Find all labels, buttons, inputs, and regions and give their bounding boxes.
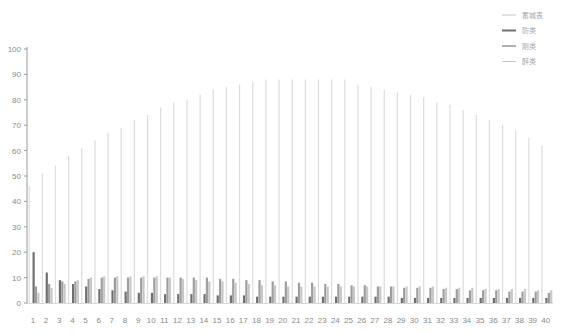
bar-series-3	[511, 289, 513, 303]
y-tick-label: 60	[12, 147, 21, 156]
x-tick-label: 20	[278, 316, 287, 325]
bar-series-0	[463, 110, 464, 303]
bar-series-1	[427, 298, 429, 303]
x-tick-label: 5	[83, 316, 88, 325]
bar-series-3	[142, 276, 144, 303]
x-tick-label: 38	[515, 316, 524, 325]
bar-series-2	[311, 283, 313, 303]
bar-series-1	[282, 297, 284, 303]
bar-series-3	[379, 286, 381, 303]
bar-series-1	[111, 290, 113, 303]
bar-series-0	[436, 102, 437, 303]
bar-series-0	[541, 146, 542, 303]
bar-series-2	[245, 280, 247, 303]
bar-series-1	[440, 298, 442, 303]
bar-series-1	[519, 298, 521, 303]
bar-series-1	[98, 289, 100, 303]
x-tick-label: 27	[370, 316, 379, 325]
bar-series-2	[390, 286, 392, 303]
bar-group-37	[502, 125, 513, 303]
legend-item-2[interactable]: 刚类	[502, 42, 536, 51]
x-axis: 1234567891011121314151617181920212223242…	[27, 304, 553, 326]
x-tick-label: 21	[291, 316, 300, 325]
bar-series-3	[405, 286, 407, 303]
bar-series-2	[403, 288, 405, 303]
bar-group-34	[463, 110, 474, 303]
x-tick-label: 37	[502, 316, 511, 325]
bar-series-1	[217, 295, 219, 303]
bar-series-3	[445, 288, 447, 303]
bar-series-2	[521, 292, 523, 303]
bar-series-2	[548, 293, 550, 303]
bar-series-0	[55, 166, 56, 303]
bar-group-38	[515, 130, 526, 303]
bar-series-0	[292, 79, 293, 303]
legend-label: 刚类	[522, 42, 536, 51]
bar-group-1	[29, 186, 40, 303]
bar-group-31	[423, 97, 434, 303]
x-tick-label: 9	[136, 316, 141, 325]
bar-series-2	[377, 286, 379, 303]
bar-series-3	[169, 278, 171, 303]
x-tick-label: 33	[449, 316, 458, 325]
x-tick-label: 8	[123, 316, 128, 325]
bar-group-35	[476, 115, 487, 303]
bar-series-1	[85, 286, 87, 303]
bar-group-20	[278, 79, 289, 303]
bar-series-0	[200, 95, 201, 303]
bar-group-26	[357, 85, 368, 303]
x-tick-label: 39	[528, 316, 537, 325]
legend-item-3[interactable]: 醉类	[502, 57, 536, 66]
bar-series-2	[140, 278, 142, 303]
y-tick-label: 0	[17, 299, 22, 308]
bar-series-1	[401, 298, 403, 303]
bar-series-0	[252, 82, 253, 303]
legend-item-1[interactable]: 防类	[502, 26, 536, 35]
bar-group-9	[134, 120, 145, 303]
x-tick-label: 7	[110, 316, 115, 325]
bar-group-23	[318, 79, 329, 303]
bar-series-1	[414, 298, 416, 303]
x-tick-label: 40	[541, 316, 550, 325]
bar-series-0	[226, 87, 227, 303]
bar-series-3	[248, 284, 250, 303]
bar-series-2	[456, 289, 458, 303]
bar-group-8	[121, 128, 132, 303]
bar-series-1	[335, 297, 337, 303]
bar-series-2	[508, 292, 510, 303]
x-tick-label: 30	[410, 316, 419, 325]
bar-series-1	[545, 298, 547, 303]
bar-group-3	[55, 166, 66, 303]
bar-group-25	[344, 79, 355, 303]
bar-series-2	[206, 278, 208, 303]
bar-group-12	[173, 102, 184, 303]
bar-series-0	[239, 85, 240, 303]
bar-series-3	[77, 280, 79, 303]
bar-series-3	[287, 286, 289, 303]
bar-series-2	[87, 279, 89, 303]
bar-series-2	[61, 281, 63, 303]
bar-series-3	[208, 281, 210, 303]
bar-series-0	[186, 100, 187, 303]
y-tick-label: 80	[12, 96, 21, 105]
bar-series-3	[484, 289, 486, 303]
bar-series-2	[180, 278, 182, 303]
bar-series-2	[364, 285, 366, 303]
bar-series-1	[151, 293, 153, 303]
bar-group-32	[436, 102, 447, 303]
bar-group-36	[489, 120, 500, 303]
legend-item-0[interactable]: 蓄城表	[502, 11, 543, 20]
bar-series-1	[348, 297, 350, 303]
x-tick-label: 36	[489, 316, 498, 325]
legend-label: 防类	[522, 26, 536, 35]
bar-series-1	[72, 284, 74, 303]
bar-series-3	[90, 278, 92, 303]
bar-series-3	[340, 286, 342, 303]
bar-series-2	[272, 281, 274, 303]
x-tick-label: 6	[96, 316, 101, 325]
bar-series-1	[506, 298, 508, 303]
bar-group-17	[239, 85, 250, 303]
bar-series-0	[449, 105, 450, 303]
legend-label: 醉类	[522, 57, 536, 66]
x-tick-label: 15	[213, 316, 222, 325]
